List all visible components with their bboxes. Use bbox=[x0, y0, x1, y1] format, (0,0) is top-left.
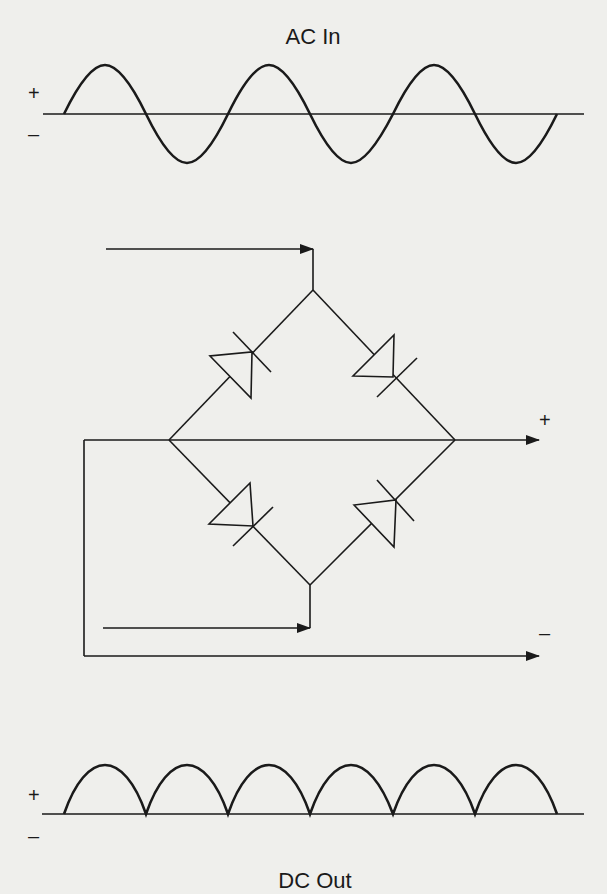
diode-upper-right bbox=[353, 335, 417, 397]
dc-rectified-wave bbox=[64, 765, 557, 814]
rectifier-diagram bbox=[0, 0, 607, 894]
